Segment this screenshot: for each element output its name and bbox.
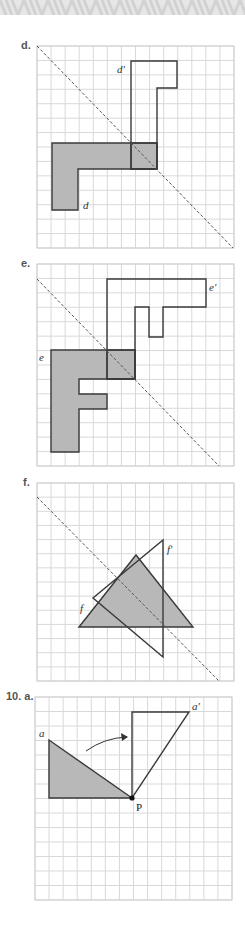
panel-10a: aa'P — [35, 697, 232, 900]
shape-label: d — [83, 199, 89, 211]
figures-canvas: dd'ee'ff'aa'P — [0, 0, 245, 933]
original-shape-f — [79, 555, 193, 627]
point-label: P — [136, 801, 142, 813]
image-label: f' — [167, 543, 173, 555]
pivot-point — [129, 795, 134, 800]
image-label: a' — [192, 700, 201, 712]
image-label: e' — [209, 281, 217, 293]
shape-label: a — [39, 727, 45, 739]
arrowhead-icon — [121, 733, 128, 741]
original-shape-d — [52, 143, 157, 210]
shape-label: f — [80, 602, 85, 614]
panel-f: ff' — [37, 483, 234, 681]
image-label: d' — [117, 63, 126, 75]
rotation-arrow-icon — [86, 737, 127, 751]
shape-label: e — [39, 351, 44, 363]
panel-e: ee' — [37, 264, 234, 466]
panel-d: dd' — [37, 46, 234, 248]
